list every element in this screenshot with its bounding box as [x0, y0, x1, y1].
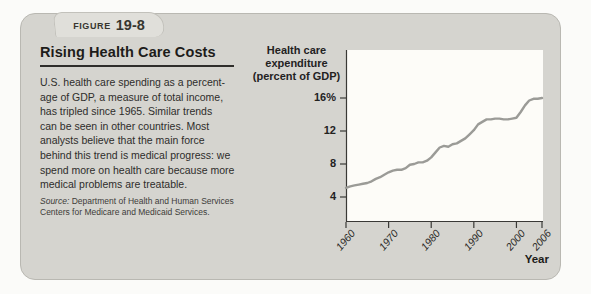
figure-description: U.S. health care spending as a percent- …	[40, 75, 250, 192]
y-tick-label: 4	[298, 190, 336, 202]
figure-tab: FIGURE 19-8	[54, 12, 164, 37]
figure-text-column: Rising Health Care Costs U.S. health car…	[40, 44, 240, 219]
title-rule	[40, 65, 234, 67]
source-label: Source:	[40, 196, 69, 206]
y-tick-label: 12	[298, 124, 336, 136]
figure-source: Source: Department of Health and Human S…	[40, 196, 250, 219]
figure-tab-word: FIGURE	[73, 18, 111, 31]
y-tick-label: 16%	[298, 91, 336, 103]
y-tick-label: 8	[298, 157, 336, 169]
y-axis-title: Health care expenditure (percent of GDP)	[248, 44, 345, 83]
health-expenditure-line	[346, 98, 542, 188]
figure-tab-number: 19-8	[116, 17, 145, 33]
chart-svg	[346, 50, 543, 222]
chart-plot-area: Year 16%1284196019701980199020002006	[346, 50, 543, 222]
figure-title: Rising Health Care Costs	[40, 44, 240, 60]
source-text: Department of Health and Human Services …	[40, 196, 234, 218]
